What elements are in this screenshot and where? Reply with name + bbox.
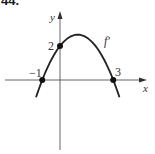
y-axis-label: y [49,11,55,23]
curve-label: f′ [104,34,110,48]
y-axis-arrow-icon [58,11,63,19]
x-axis-label: x [142,82,148,94]
label-3: 3 [115,65,121,79]
point-y-intercept [57,43,63,49]
label-neg1: −1 [29,66,42,80]
function-graph: −1 2 3 y x f′ [0,0,155,154]
label-2: 2 [48,39,54,53]
